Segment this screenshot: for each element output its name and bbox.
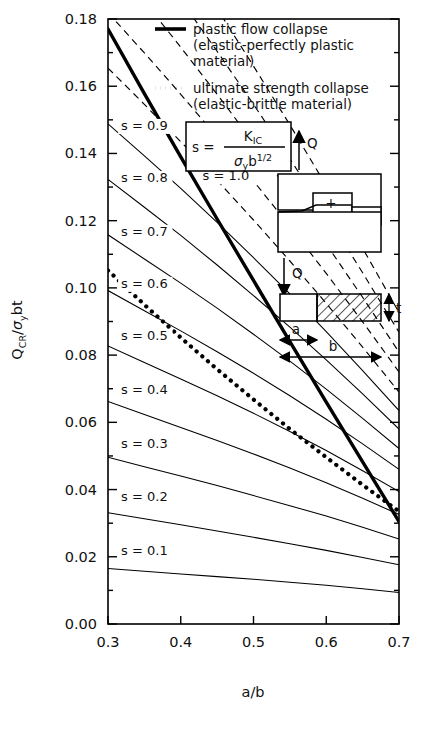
legend-entry-1-line-1: plastic flow collapse (193, 22, 328, 37)
y-title-q: Q (9, 348, 25, 359)
y-title-cr: CR (17, 335, 28, 349)
figure-container: 0.000.020.040.060.080.100.120.140.160.18… (0, 0, 422, 730)
inset-beam-lower (278, 212, 381, 252)
svg-text:QCR/σybt: QCR/σybt (9, 300, 28, 360)
curve-label-s-0-4: s = 0.4 (121, 382, 168, 397)
curve-label-s-0-3: s = 0.3 (121, 436, 168, 451)
y-tick-label: 0.10 (65, 280, 97, 296)
inset-dim-t-label: t (396, 300, 401, 316)
formula-box: s = KIC σyb1/2 (186, 122, 291, 171)
curve-label-s-0-1: s = 0.1 (121, 543, 168, 558)
x-axis-tick-labels: 0.30.40.50.60.7 (96, 634, 410, 650)
legend-entry-1-line-2: (elastic-perfectly plastic (193, 38, 354, 53)
curve-label-s-0-8: s = 0.8 (121, 170, 168, 185)
inset-load-label-top: Q (307, 135, 318, 151)
x-axis-title: a/b (242, 684, 265, 700)
legend-entry-1-line-3: material) (193, 54, 254, 69)
y-tick-label: 0.08 (65, 347, 97, 363)
y-title-bt: bt (9, 300, 25, 315)
curve-label-s-0-6: s = 0.6 (121, 276, 168, 291)
inset-load-label-bottom: Q (292, 265, 303, 281)
curve-label-s-0-2: s = 0.2 (121, 489, 168, 504)
legend-entry-2-line-1: ultimate strength collapse (193, 81, 369, 96)
curve-label-s-0-5: s = 0.5 (121, 328, 168, 343)
y-tick-label: 0.14 (65, 145, 97, 161)
curve-label-s-0-9: s = 0.9 (121, 118, 168, 133)
y-tick-label: 0.12 (65, 213, 97, 229)
inset-dim-a-label: a (292, 321, 300, 337)
y-tick-label: 0.04 (65, 482, 97, 498)
formula-lhs: s = (192, 139, 215, 155)
x-tick-label: 0.3 (96, 634, 119, 650)
inset-moment-plus-label: + (325, 195, 336, 211)
y-tick-label: 0.00 (65, 616, 97, 632)
chart-svg: 0.000.020.040.060.080.100.120.140.160.18… (0, 0, 422, 730)
y-tick-label: 0.16 (65, 78, 97, 94)
legend-entry-2-line-2: (elastic-brittle material) (193, 97, 352, 112)
x-tick-label: 0.7 (387, 634, 410, 650)
x-tick-label: 0.6 (315, 634, 338, 650)
y-tick-label: 0.18 (65, 11, 97, 27)
x-tick-label: 0.4 (169, 634, 192, 650)
y-tick-label: 0.02 (65, 549, 97, 565)
inset-section-cracked (317, 294, 381, 321)
inset-dim-b-label: b (329, 338, 338, 354)
inset-section-uncracked (280, 294, 317, 321)
x-tick-label: 0.5 (242, 634, 265, 650)
y-tick-label: 0.06 (65, 414, 97, 430)
y-axis-title: QCR/σybt (9, 300, 28, 360)
curve-label-s-0-7: s = 0.7 (121, 224, 168, 239)
y-axis-tick-labels: 0.000.020.040.060.080.100.120.140.160.18 (65, 11, 97, 632)
